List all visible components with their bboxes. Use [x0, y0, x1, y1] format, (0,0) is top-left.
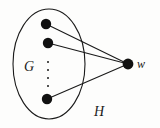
label-w: w [137, 58, 145, 70]
edge-v2-w [48, 43, 128, 64]
label-g: G [24, 60, 34, 74]
ellipsis-dot [47, 69, 49, 71]
vertex-v1 [41, 19, 51, 29]
ellipsis-dot [47, 77, 49, 79]
label-h: H [94, 105, 104, 119]
vertex-v3 [42, 94, 52, 104]
ellipsis-dot [47, 61, 49, 63]
ellipsis-dot [47, 85, 49, 87]
edge-v3-w [47, 64, 128, 99]
figure-container: G H w [0, 0, 160, 128]
edge-group [46, 24, 128, 99]
vertex-w [123, 59, 134, 70]
vertex-v2 [43, 38, 53, 48]
vertical-ellipsis-icon [47, 61, 49, 87]
edge-v1-w [46, 24, 128, 64]
